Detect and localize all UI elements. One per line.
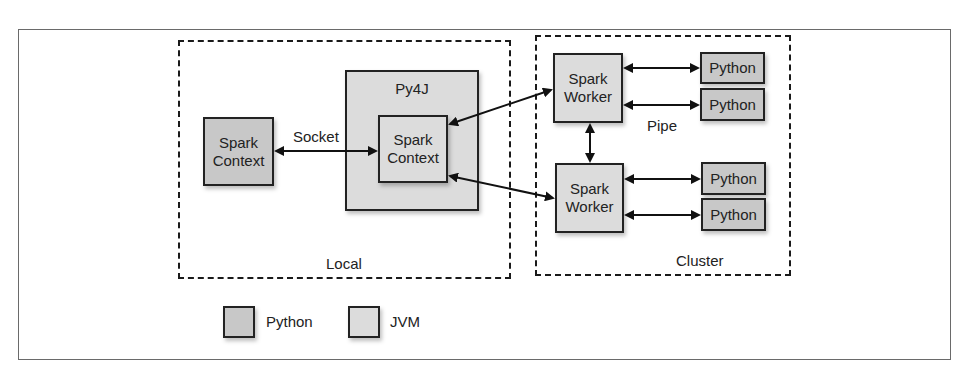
legend-jvm-swatch	[348, 306, 380, 338]
legend-python-label: Python	[266, 313, 313, 330]
context-worker2-arrow	[450, 176, 553, 198]
context-worker1-arrow	[450, 90, 551, 124]
edges-layer	[0, 0, 970, 383]
legend-jvm-label: JVM	[390, 313, 420, 330]
legend-python-swatch	[223, 306, 255, 338]
